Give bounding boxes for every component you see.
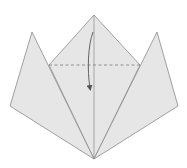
origami-diagram	[0, 0, 187, 168]
origami-svg	[0, 0, 187, 168]
